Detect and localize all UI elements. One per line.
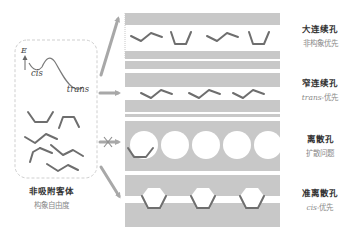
cage	[254, 131, 282, 159]
pore-title-large-continuous: 大连续孔	[302, 22, 338, 34]
guest-molecule	[25, 134, 57, 143]
arrow-to-large-continuous	[101, 19, 118, 75]
arrow-to-quasi-discrete	[101, 167, 119, 196]
pore-title-narrow-continuous: 窄连续孔	[302, 76, 338, 88]
cage	[192, 131, 220, 159]
guest-molecule-trans	[207, 33, 238, 41]
guest-molecule	[47, 164, 78, 171]
cage	[130, 131, 158, 159]
guest-molecule	[30, 148, 40, 162]
panel-large-continuous	[125, 13, 280, 59]
pore-subtitle-discrete: 扩散问题	[306, 147, 334, 158]
pore-subtitle-prefix: cis	[307, 203, 317, 212]
guest-molecule-trans	[233, 90, 264, 98]
guest-molecule	[51, 145, 83, 156]
free-guest-molecules	[25, 112, 83, 171]
cage	[161, 131, 189, 159]
guest-molecule-trans	[131, 33, 162, 41]
arrows	[100, 19, 119, 196]
energy-label: E	[21, 46, 27, 55]
pore-subtitle-text: 扩散问题	[306, 149, 334, 158]
pore-subtitle-quasi-discrete: cis-优先	[307, 201, 334, 212]
guest-molecule-cis	[249, 32, 269, 44]
pore-subtitle-narrow-continuous: trans-优先	[302, 91, 338, 102]
guest-molecule-trans	[141, 90, 172, 98]
guest-box	[15, 40, 97, 178]
pore-subtitle-large-continuous: 非构象优先	[303, 37, 338, 48]
guest-title: 非吸附客体	[29, 184, 74, 196]
guest-molecule-cis	[171, 32, 191, 44]
panel-narrow-continuous	[125, 61, 280, 112]
pore-subtitle-text: -优先	[317, 203, 334, 212]
guest-subtitle: 构象自由度	[34, 199, 69, 210]
pore-subtitle-text: 非构象优先	[303, 39, 338, 48]
guest-molecule-trans	[189, 90, 220, 98]
guest-molecule	[40, 148, 52, 153]
guest-molecule	[59, 117, 79, 128]
cage	[223, 131, 251, 159]
panel-discrete	[125, 114, 282, 171]
pore-subtitle-text: -优先	[322, 93, 339, 102]
guest-molecule	[28, 112, 53, 122]
pore-title-discrete: 离散孔	[307, 132, 334, 144]
cis-label: cis	[31, 68, 43, 78]
pore-subtitle-prefix: trans	[302, 93, 322, 102]
energy-axis-icon	[23, 55, 28, 70]
pore-title-quasi-discrete: 准离散孔	[302, 186, 338, 198]
panel-quasi-discrete	[125, 165, 280, 227]
trans-label: trans	[67, 84, 89, 94]
